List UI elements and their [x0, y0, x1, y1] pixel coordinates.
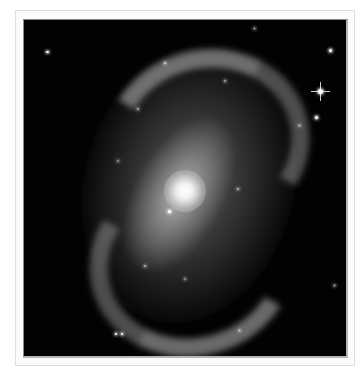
star-field-2 [334, 285, 335, 286]
hii-region-3 [117, 160, 119, 162]
star-upper-left [46, 51, 49, 53]
galaxy [24, 20, 346, 356]
star-upper-right [329, 49, 332, 52]
galaxy-core [164, 170, 206, 212]
star-spike-vertical [320, 82, 321, 101]
galaxy-photo [23, 19, 348, 358]
hii-region-4 [144, 265, 146, 267]
star-bottom-pair-2 [121, 333, 123, 335]
star-field-4 [299, 125, 300, 126]
star-inner-bright [168, 210, 171, 213]
hii-region-1 [164, 62, 166, 64]
star-bottom-pair-1 [115, 333, 117, 335]
star-right-small [315, 116, 318, 119]
hii-region-2 [137, 108, 139, 110]
star-field-1 [254, 28, 255, 29]
star-field-3 [239, 330, 240, 331]
hii-region-7 [184, 278, 186, 280]
hii-region-6 [237, 188, 239, 190]
hii-region-5 [224, 80, 226, 82]
